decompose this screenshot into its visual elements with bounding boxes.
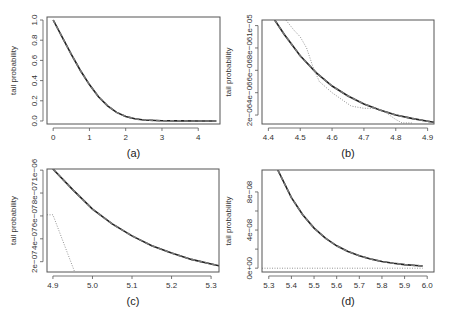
panel-a: 012340.00.20.40.60.81.0tail probability(… xyxy=(9,14,220,159)
panel-c: 4.95.05.15.25.32e−074e−076e−078e−071e−06… xyxy=(9,158,219,307)
series-solid-line xyxy=(53,169,219,266)
x-tick-label: 5.6 xyxy=(331,281,343,290)
series-dashed-line xyxy=(275,20,434,122)
series-dotted-line xyxy=(47,215,75,272)
y-tick-label: 6e−07 xyxy=(30,204,39,227)
y-tick-label: 0.4 xyxy=(30,74,39,86)
y-tick-label: 0e+00 xyxy=(245,256,254,279)
series-dashed-line xyxy=(53,20,216,121)
y-tick-label: 4e−08 xyxy=(245,218,254,241)
plot-frame xyxy=(262,170,434,272)
y-axis-label: tail probability xyxy=(224,48,233,97)
series-group xyxy=(53,20,216,121)
x-tick-label: 5.5 xyxy=(308,281,320,290)
plot-frame xyxy=(47,169,219,272)
y-tick-label: 4e−07 xyxy=(30,227,39,250)
panel-caption: (b) xyxy=(341,147,354,159)
y-tick-label: 2e−06 xyxy=(245,103,254,126)
y-axis: 2e−064e−066e−068e−061e−05 xyxy=(245,14,258,126)
series-group xyxy=(275,20,434,123)
x-tick-label: 2 xyxy=(123,133,128,142)
x-axis: 4.44.54.64.74.84.9 xyxy=(263,128,434,142)
x-tick-label: 1 xyxy=(87,133,92,142)
figure: 012340.00.20.40.60.81.0tail probability(… xyxy=(0,0,449,317)
series-solid-line xyxy=(53,20,216,121)
x-axis: 4.95.05.15.25.3 xyxy=(47,276,217,290)
x-tick-label: 4.5 xyxy=(295,133,307,142)
x-tick-label: 4.7 xyxy=(358,133,370,142)
panel-b: 4.44.54.64.74.84.92e−064e−066e−068e−061e… xyxy=(224,14,434,159)
y-tick-label: 8e−06 xyxy=(245,36,254,59)
x-tick-label: 5.4 xyxy=(286,281,298,290)
y-tick-label: 0.2 xyxy=(30,95,39,107)
y-tick-label: 0.0 xyxy=(30,115,39,127)
series-dashed-line xyxy=(53,169,219,266)
panel-d: 5.35.45.55.65.75.85.96.00e+004e−088e−08t… xyxy=(224,170,434,307)
y-axis-label: tail probability xyxy=(9,196,18,245)
series-group xyxy=(47,169,219,272)
x-tick-label: 6.0 xyxy=(422,281,434,290)
x-tick-label: 4.9 xyxy=(47,281,59,290)
y-tick-label: 1e−05 xyxy=(245,14,254,37)
series-solid-line xyxy=(275,20,434,122)
y-axis-label: tail probability xyxy=(9,46,18,95)
y-axis: 0e+004e−088e−08 xyxy=(245,180,258,279)
x-tick-label: 4.6 xyxy=(327,133,339,142)
y-axis: 0.00.20.40.60.81.0 xyxy=(30,14,43,127)
x-tick-label: 5.0 xyxy=(87,281,99,290)
y-tick-label: 1.0 xyxy=(30,14,39,26)
y-tick-label: 1e−06 xyxy=(30,158,39,181)
x-tick-label: 4.8 xyxy=(390,133,402,142)
plot-frame xyxy=(47,17,220,124)
x-tick-label: 5.3 xyxy=(206,281,218,290)
y-tick-label: 6e−06 xyxy=(245,59,254,82)
y-tick-label: 0.8 xyxy=(30,34,39,46)
x-tick-label: 5.7 xyxy=(354,281,366,290)
y-tick-label: 0.6 xyxy=(30,54,39,66)
y-tick-label: 2e−07 xyxy=(30,250,39,273)
x-tick-label: 0 xyxy=(51,133,56,142)
y-tick-label: 4e−06 xyxy=(245,81,254,104)
y-axis: 2e−074e−076e−078e−071e−06 xyxy=(30,158,43,273)
y-axis-label: tail probability xyxy=(224,197,233,246)
panel-caption: (a) xyxy=(127,147,140,159)
x-tick-label: 5.3 xyxy=(263,281,275,290)
panel-caption: (c) xyxy=(127,295,140,307)
x-tick-label: 5.8 xyxy=(376,281,388,290)
series-dotted-line xyxy=(286,20,412,123)
y-tick-label: 8e−07 xyxy=(30,181,39,204)
x-tick-label: 5.9 xyxy=(399,281,411,290)
x-tick-label: 5.2 xyxy=(166,281,178,290)
series-dashed-line xyxy=(278,170,423,266)
x-axis: 5.35.45.55.65.75.85.96.0 xyxy=(263,276,433,290)
x-tick-label: 4.4 xyxy=(263,133,275,142)
x-tick-label: 4 xyxy=(196,133,201,142)
panel-caption: (d) xyxy=(341,295,354,307)
series-group xyxy=(262,170,423,268)
x-axis: 01234 xyxy=(51,128,201,142)
plot-frame xyxy=(262,20,434,124)
y-tick-label: 8e−08 xyxy=(245,180,254,203)
x-tick-label: 3 xyxy=(160,133,165,142)
x-tick-label: 5.1 xyxy=(126,281,138,290)
x-tick-label: 4.9 xyxy=(422,133,434,142)
